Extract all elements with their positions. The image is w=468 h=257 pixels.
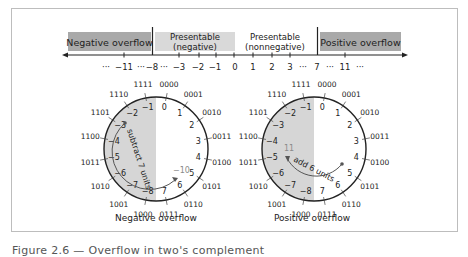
binary-label: 0011 — [370, 132, 389, 141]
decimal-label: 2 — [347, 121, 352, 130]
left-caption: Negative overflow — [115, 213, 197, 223]
decimal-label: −2 — [126, 109, 138, 118]
tick-label-3: 3 — [287, 62, 292, 72]
figure-caption: Figure 2.6 — Overflow in two's complemen… — [12, 244, 264, 257]
binary-label: 1110 — [267, 90, 286, 99]
tick-label-2: 2 — [269, 62, 274, 72]
wheel-tick — [204, 138, 212, 140]
presentable-negative-label-2: (negative) — [173, 42, 217, 52]
binary-label: 0001 — [342, 90, 361, 99]
decimal-label: 5 — [189, 169, 194, 178]
binary-label: 1011 — [239, 158, 258, 167]
tick-label-neg2: −2 — [192, 62, 205, 72]
tick-label-11: 11 — [340, 62, 351, 72]
decimal-label: −4 — [266, 137, 278, 146]
decimal-label: −1 — [142, 103, 154, 112]
binary-label: 1111 — [133, 80, 152, 89]
decimal-label: −8 — [300, 187, 312, 196]
decimal-label: 1 — [177, 109, 182, 118]
decimal-label: 7 — [320, 187, 325, 196]
binary-label: 1110 — [109, 90, 128, 99]
tick-label-neg1: −1 — [209, 62, 222, 72]
binary-label: 1001 — [267, 200, 286, 209]
arrow-left-icon — [62, 53, 68, 58]
wheel-tick — [204, 159, 212, 161]
tick-dots: ··· — [102, 62, 110, 72]
right-result-label: 11 — [284, 144, 294, 153]
decimal-label: −6 — [272, 169, 284, 178]
binary-label: 0100 — [370, 158, 389, 167]
binary-label: 0010 — [202, 108, 221, 117]
binary-label: 1100 — [81, 132, 100, 141]
binary-label: 1101 — [249, 108, 268, 117]
tick-dots: ··· — [160, 62, 168, 72]
tick-label-0: 0 — [232, 62, 237, 72]
decimal-label: 3 — [354, 137, 359, 146]
decimal-label: 4 — [196, 153, 201, 162]
wheel-tick — [362, 159, 370, 161]
binary-label: 0101 — [360, 182, 379, 191]
decimal-label: 5 — [347, 169, 352, 178]
binary-label: 1111 — [291, 80, 310, 89]
arrow-right-icon — [402, 53, 408, 58]
tick-labels: ··· −11 ··· −8 ··· −3 −2 −1 0 1 2 3 ··· … — [102, 62, 364, 72]
decimal-label: 1 — [335, 109, 340, 118]
binary-label: 0100 — [212, 158, 231, 167]
arc-start-dot — [123, 121, 127, 125]
presentable-nonnegative-label-1: Presentable — [250, 32, 300, 42]
decimal-label: 4 — [354, 153, 359, 162]
binary-label: 0000 — [160, 80, 179, 89]
binary-label: 0110 — [184, 200, 203, 209]
binary-label: 0101 — [202, 182, 221, 191]
binary-label: 0000 — [318, 80, 337, 89]
negative-overflow-label: Negative overflow — [66, 37, 153, 48]
arc-end-dot — [340, 162, 344, 166]
binary-label: 0010 — [360, 108, 379, 117]
wheel-tick — [362, 138, 370, 140]
decimal-label: −1 — [300, 103, 312, 112]
decimal-label: 6 — [177, 181, 182, 190]
tick-label-neg8: −8 — [146, 62, 159, 72]
decimal-label: −3 — [272, 121, 284, 130]
decimal-label: −2 — [284, 109, 296, 118]
decimal-label: 6 — [335, 181, 340, 190]
wheel-tick — [324, 93, 326, 101]
wheel-tick — [166, 93, 168, 101]
binary-label: 1010 — [249, 182, 268, 191]
binary-label: 0110 — [342, 200, 361, 209]
decimal-label: 3 — [196, 137, 201, 146]
tick-label-7: 7 — [314, 62, 319, 72]
tick-label-1: 1 — [250, 62, 255, 72]
decimal-label: 0 — [162, 103, 167, 112]
binary-label: 0011 — [212, 132, 231, 141]
positive-overflow-label: Positive overflow — [320, 37, 401, 48]
binary-label: 1001 — [109, 200, 128, 209]
tick-dots: ··· — [299, 62, 307, 72]
tick-label-neg3: −3 — [173, 62, 186, 72]
tick-label-neg11: −11 — [115, 62, 133, 72]
binary-label: 1100 — [239, 132, 258, 141]
positive-overflow-wheel: 0000000011001020011301004010150110601117… — [239, 80, 390, 218]
right-caption: Positive overflow — [274, 213, 350, 223]
decimal-label: 7 — [162, 187, 167, 196]
decimal-label: −7 — [284, 181, 296, 190]
decimal-label: −5 — [108, 153, 120, 162]
decimal-label: 0 — [320, 103, 325, 112]
tick-dots: ··· — [326, 62, 334, 72]
binary-label: 1101 — [91, 108, 110, 117]
wheel-tick — [166, 197, 168, 205]
left-result-label: −10 — [173, 166, 190, 175]
decimal-label: 2 — [189, 121, 194, 130]
presentable-negative-label-1: Presentable — [170, 32, 220, 42]
binary-label: 1011 — [81, 158, 100, 167]
tick-dots: ··· — [356, 62, 364, 72]
presentable-nonnegative-label-2: (nonnegative) — [245, 42, 305, 52]
wheel-tick — [324, 197, 326, 205]
binary-label: 0001 — [184, 90, 203, 99]
binary-label: 1010 — [91, 182, 110, 191]
decimal-label: −5 — [266, 153, 278, 162]
decimal-label: −6 — [114, 169, 126, 178]
tick-dots: ··· — [137, 62, 145, 72]
negative-overflow-wheel: 0000000011001020011301004010150110601117… — [81, 80, 232, 218]
